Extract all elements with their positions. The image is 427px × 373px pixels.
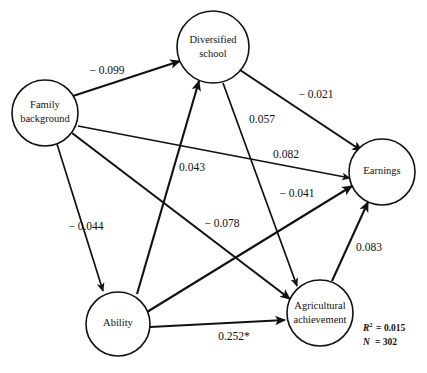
node-agricultural-achievement[interactable]: Agricultural achievement: [287, 280, 353, 346]
path-diagram-figure: Family background Diversified school Ear…: [0, 0, 427, 373]
r-squared-stat: R2= 0.015: [362, 321, 406, 333]
edge-label-agricultural-to-earnings: 0.083: [356, 241, 382, 253]
node-label-diversified-school-line2: school: [199, 48, 226, 59]
n-stat: N= 302: [362, 337, 397, 347]
diagram-canvas: Family background Diversified school Ear…: [0, 0, 427, 373]
edge-label-ability-to-earnings: − 0.041: [279, 187, 314, 199]
edge-label-family-to-earnings: 0.082: [273, 148, 299, 160]
node-diversified-school[interactable]: Diversified school: [177, 11, 249, 83]
node-circle-diversified-school: [177, 11, 249, 83]
edge-family-to-earnings: [78, 126, 350, 178]
edge-label-family-to-diversified: − 0.099: [89, 64, 124, 76]
node-circle-agricultural-achievement: [287, 280, 353, 346]
edge-family-to-agricultural: [72, 133, 290, 299]
node-family-background[interactable]: Family background: [12, 80, 78, 146]
edge-label-ability-to-agricultural: 0.252*: [218, 330, 250, 342]
statistics-annotation: R2= 0.015 N= 302: [362, 321, 406, 347]
node-label-agricultural-achievement-line1: Agricultural: [294, 300, 345, 311]
edge-diversified-to-earnings: [240, 70, 362, 151]
n-value: = 302: [375, 337, 397, 347]
r-squared-exponent: 2: [369, 321, 372, 328]
edge-label-diversified-to-earnings: − 0.021: [298, 88, 333, 100]
node-label-agricultural-achievement-line2: achievement: [293, 314, 346, 325]
edge-family-to-ability: [57, 144, 103, 291]
n-symbol: N: [362, 337, 371, 347]
edge-ability-to-agricultural: [150, 320, 285, 327]
node-label-diversified-school-line1: Diversified: [189, 34, 237, 45]
nodes-group: Family background Diversified school Ear…: [12, 11, 415, 356]
edge-label-ability-to-diversified: 0.043: [179, 161, 205, 173]
node-label-family-background-line2: background: [20, 113, 70, 124]
node-label-earnings-line1: Earnings: [363, 165, 400, 176]
edge-label-diversified-to-agricultural: 0.057: [249, 113, 275, 125]
node-ability[interactable]: Ability: [86, 292, 150, 356]
node-earnings[interactable]: Earnings: [349, 139, 415, 205]
node-label-family-background-line1: Family: [30, 99, 61, 110]
edge-label-family-to-agricultural: − 0.078: [204, 217, 239, 229]
edge-ability-to-diversified: [137, 81, 199, 294]
r-squared-value: = 0.015: [376, 323, 405, 333]
edge-label-family-to-ability: − 0.044: [68, 220, 103, 232]
node-label-ability-line1: Ability: [103, 317, 134, 328]
r-squared-symbol: R: [362, 323, 369, 333]
